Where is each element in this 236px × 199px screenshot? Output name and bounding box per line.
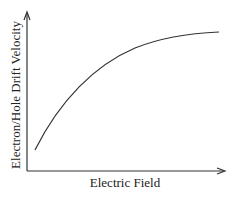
- x-axis-label: Electric Field: [90, 175, 161, 190]
- drift-velocity-curve: [35, 32, 219, 150]
- y-axis-label: Electron/Hole Drift Velocity: [8, 21, 23, 169]
- drift-velocity-chart: Electric Field Electron/Hole Drift Veloc…: [0, 0, 236, 199]
- chart-canvas: Electric Field Electron/Hole Drift Veloc…: [0, 0, 236, 199]
